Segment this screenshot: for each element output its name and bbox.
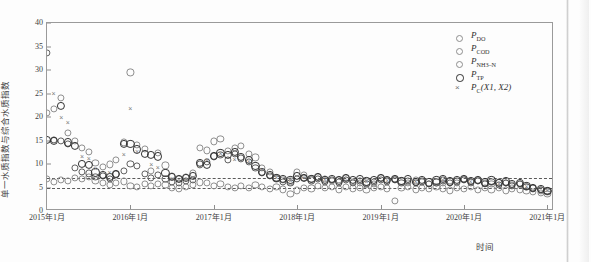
x-tick-mark [297,205,298,209]
data-point-p-c: × [205,156,209,163]
data-point-p-do [106,161,113,168]
legend-circle-icon [455,73,464,82]
figure-root: 单一水质指数与综合水质指数 时间 ×××××××××××××××××××××××… [0,0,591,262]
y-tick-label: 15 [35,137,43,145]
data-point-p-do [252,154,259,161]
data-point-p-nh3n [71,165,78,172]
data-point-p-c: × [441,177,445,184]
data-point-p-tp [112,170,120,178]
data-point-p-cod [342,183,349,190]
data-point-p-do [196,144,203,151]
data-point-p-c: × [260,165,264,172]
x-tick-mark [547,205,548,209]
data-point-p-do [238,142,245,149]
y-tick-label: 35 [35,43,43,51]
data-point-p-tp [57,102,65,110]
legend-label: PDO [471,30,485,42]
data-point-p-c: × [469,177,473,184]
data-point-p-c: × [184,175,188,182]
data-point-p-cod [384,185,391,192]
y-axis-title: 单一水质指数与综合水质指数 [10,38,24,198]
y-tick-mark [47,164,51,165]
x-tick-label: 2016年1月 [112,214,148,222]
y-tick-label: 10 [35,160,43,168]
x-tick-mark [464,205,465,209]
data-point-p-cod [446,187,453,194]
data-point-p-cod [404,183,411,190]
legend-label: PC(X1, X2) [471,82,511,94]
data-point-p-cod [133,183,140,190]
data-point-p-c: × [288,176,292,183]
data-point-p-do [127,69,134,76]
x-tick-label: 2018年1月 [279,214,315,222]
data-point-p-tp [154,152,162,160]
data-point-p-c: × [170,174,174,181]
data-point-p-c: × [198,162,202,169]
data-point-p-c: × [135,148,139,155]
data-point-p-c: × [87,155,91,162]
data-point-p-c: × [80,152,84,159]
legend-circle-icon [455,34,464,43]
data-point-p-c: × [156,163,160,170]
scan-artifact-edge [579,0,589,262]
data-point-p-c: × [218,150,222,157]
y-tick-label: 40 [35,19,43,27]
data-point-p-c: × [59,114,63,121]
x-tick-label: 2017年1月 [196,214,232,222]
y-tick-label: 30 [35,66,43,74]
data-point-p-cod [279,186,286,193]
data-point-p-c: × [233,155,237,162]
y-tick-mark [47,117,51,118]
y-tick-mark [47,23,51,24]
legend-label: PCOD [471,43,490,55]
data-point-p-cod [50,178,57,185]
x-tick-label: 2019年1月 [363,214,399,222]
y-tick-mark [47,46,51,47]
data-point-p-c: × [274,173,278,180]
data-point-p-c: × [343,176,347,183]
legend-circle-icon [455,47,464,56]
legend-label-sub: TP [477,74,484,81]
data-point-p-cod [113,180,120,187]
data-point-p-c: × [93,165,97,172]
x-axis-title: 时间 [476,240,494,252]
legend-label-tail: (X1, X2) [481,82,512,92]
legend-label-sub: DO [477,35,486,42]
data-point-p-cod [259,183,266,190]
legend-label: PNH3–N [471,56,496,68]
data-point-p-c: × [414,178,418,185]
data-point-p-c: × [107,169,111,176]
data-point-p-c: × [149,160,153,167]
y-tick-mark [47,70,51,71]
data-point-p-c: × [66,119,70,126]
data-point-p-do [58,94,65,101]
y-axis-title-text: 单一水质指数与综合水质指数 [0,81,10,198]
legend-circle-icon [455,60,464,69]
data-point-p-nh3n [120,167,127,174]
data-point-p-cod [321,184,328,191]
data-point-p-cod [488,186,495,193]
data-point-p-c: × [122,151,126,158]
x-tick-mark [214,205,215,209]
y-tick-label: 25 [35,90,43,98]
data-point-p-c: × [128,105,132,112]
x-tick-label: 2020年1月 [446,214,482,222]
data-point-p-c: × [302,174,306,181]
data-point-p-cod [363,186,370,193]
data-point-p-c: × [497,179,501,186]
data-point-p-c: × [524,183,528,190]
data-point-p-tp [50,137,58,145]
data-point-p-tp [70,142,78,150]
y-tick-label: 5 [39,184,43,192]
data-point-p-cod [391,198,398,205]
data-point-p-cod [71,175,78,182]
data-point-p-cod [154,180,161,187]
data-point-p-c: × [545,187,549,194]
data-point-p-nh3n [47,49,51,56]
data-point-p-cod [300,184,307,191]
data-point-p-tp [85,161,93,169]
x-tick-label: 2015年1月 [29,214,65,222]
scan-artifact-line [566,0,569,262]
legend-label: PTP [471,69,484,81]
x-tick-mark [381,205,382,209]
